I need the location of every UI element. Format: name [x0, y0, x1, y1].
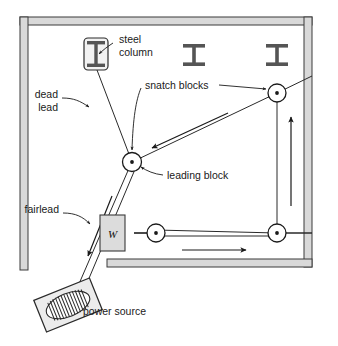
snatch-block-upper-right: [268, 84, 286, 102]
rope-arrow-to-leading-block: [152, 113, 228, 148]
steel-column-web: [94, 41, 97, 67]
snatch-block-lower-right: [268, 224, 286, 242]
leader-snatch-blocks-right: [219, 85, 266, 89]
leading-block: [123, 153, 142, 172]
label-leading-block: leading block: [167, 169, 229, 181]
snatch-block-lower-left: [147, 224, 165, 242]
i-beam-right-flange-bottom: [266, 62, 288, 66]
weight-block: W: [100, 215, 125, 251]
steel-column-flange-bottom: [87, 64, 105, 67]
leader-leading-block: [141, 167, 163, 175]
text-labels: steel column dead lead snatch blocks lea…: [25, 33, 229, 317]
label-snatch-blocks: snatch blocks: [145, 79, 209, 91]
rigging-diagram-svg: W: [0, 0, 338, 346]
leader-fairlead: [63, 213, 90, 224]
label-steel-column-line2: column: [119, 46, 153, 58]
label-dead-lead-line1: dead: [35, 88, 59, 100]
label-fairlead: fairlead: [25, 203, 60, 215]
blocks: [123, 84, 287, 242]
wall-left: [20, 17, 28, 270]
weight-block-label: W: [108, 228, 118, 240]
wall-top: [20, 17, 312, 25]
leader-snatch-blocks-left: [132, 88, 141, 150]
label-power-source: power source: [83, 305, 146, 317]
i-beam-center: [183, 44, 205, 66]
i-beam-right: [266, 44, 288, 66]
rope-dead-lead: [97, 70, 132, 162]
diagram-canvas: W: [0, 0, 338, 346]
i-beam-center-flange-bottom: [183, 62, 205, 66]
rope-leading-to-upper-snatch: [132, 93, 277, 162]
wall-bottom: [107, 259, 312, 267]
label-dead-lead-line2: lead: [38, 101, 58, 113]
wall-right: [304, 17, 312, 267]
steel-column: [84, 38, 108, 70]
rope-bottom-run-upper: [156, 230, 277, 233]
leader-dead-lead: [62, 98, 89, 107]
label-steel-column-line1: steel: [119, 33, 141, 45]
